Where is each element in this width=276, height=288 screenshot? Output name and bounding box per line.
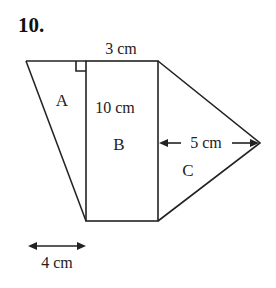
arrowhead-left-icon bbox=[159, 139, 168, 147]
shape-a-slant-edge bbox=[26, 61, 86, 221]
question-number: 10. bbox=[18, 13, 44, 37]
label-region-b: B bbox=[113, 135, 124, 154]
composite-shape-figure: 10. 3 cm A 10 cm B 5 cm C 4 cm bbox=[0, 0, 276, 288]
arrowhead-right-icon bbox=[77, 242, 86, 250]
label-top-width: 3 cm bbox=[105, 40, 137, 57]
label-triangle-height: 5 cm bbox=[190, 134, 222, 151]
right-angle-marker bbox=[76, 61, 86, 71]
label-region-a: A bbox=[56, 91, 69, 110]
arrowhead-left-icon bbox=[28, 242, 37, 250]
label-height: 10 cm bbox=[95, 99, 135, 116]
label-region-c: C bbox=[182, 161, 193, 180]
label-bottom-offset: 4 cm bbox=[41, 254, 73, 271]
